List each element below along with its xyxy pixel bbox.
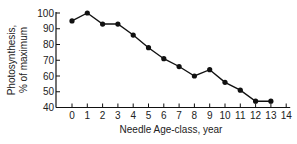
y-axis-title-line1: Photosynthesis, [6,25,17,96]
data-markers [69,10,273,103]
data-point [131,32,136,37]
x-tick-label: 5 [146,110,152,121]
x-tick-label: 12 [250,110,262,121]
data-point [115,21,120,26]
data-point [177,64,182,69]
x-axis-title: Needle Age-class, year [120,124,224,135]
data-point [85,10,90,15]
y-axis: 405060708090100 [37,8,60,114]
data-point [238,88,243,93]
data-point [268,99,273,104]
y-tick-label: 50 [43,86,55,97]
x-tick-label: 13 [265,110,277,121]
y-tick-label: 70 [43,55,55,66]
x-tick-label: 9 [207,110,213,121]
x-tick-label: 10 [219,110,231,121]
data-point [207,67,212,72]
x-tick-label: 3 [115,110,121,121]
data-point [146,45,151,50]
x-tick-label: 0 [69,110,75,121]
x-tick-label: 4 [130,110,136,121]
line-chart: 405060708090100 01234567891011121314 Nee… [0,0,297,144]
x-tick-label: 6 [161,110,167,121]
x-tick-label: 2 [100,110,106,121]
data-point [222,80,227,85]
y-tick-label: 60 [43,71,55,82]
x-tick-label: 11 [235,110,246,121]
y-tick-label: 40 [43,102,55,113]
y-tick-label: 100 [37,8,54,19]
data-point [192,73,197,78]
x-tick-label: 7 [176,110,182,121]
y-tick-label: 90 [43,23,55,34]
x-tick-label: 1 [85,110,91,121]
x-axis: 01234567891011121314 [56,104,292,121]
x-tick-label: 8 [192,110,198,121]
y-axis-title-line2: % of maximum [18,27,29,93]
data-point [69,18,74,23]
data-point [161,56,166,61]
x-tick-label: 14 [281,110,293,121]
data-point [253,99,258,104]
y-tick-label: 80 [43,39,55,50]
data-point [100,21,105,26]
